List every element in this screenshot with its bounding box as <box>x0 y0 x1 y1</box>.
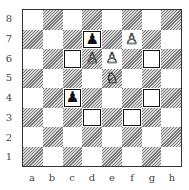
square-e4[interactable] <box>102 88 122 108</box>
square-f7[interactable]: ♙ <box>122 30 142 50</box>
black-pawn-icon[interactable]: ♟ <box>85 32 98 47</box>
square-b8[interactable] <box>43 10 63 30</box>
square-f5[interactable] <box>122 69 142 89</box>
file-label-g: g <box>142 172 162 183</box>
square-c4[interactable]: ♟ <box>63 88 83 108</box>
file-label-f: f <box>122 172 142 183</box>
file-label-d: d <box>82 172 102 183</box>
square-f3[interactable] <box>122 108 142 128</box>
file-label-h: h <box>162 172 182 183</box>
square-f6[interactable] <box>122 49 142 69</box>
square-e8[interactable] <box>102 10 122 30</box>
square-b1[interactable] <box>43 147 63 167</box>
rank-label-1: 1 <box>3 151 15 162</box>
square-d5[interactable] <box>82 69 102 89</box>
square-b2[interactable] <box>43 127 63 147</box>
white-pawn-icon[interactable]: ♙ <box>105 51 118 66</box>
square-c3[interactable] <box>63 108 83 128</box>
square-c7[interactable] <box>63 30 83 50</box>
square-a5[interactable] <box>23 69 43 89</box>
square-g2[interactable] <box>142 127 162 147</box>
square-h1[interactable] <box>161 147 181 167</box>
square-g3[interactable] <box>142 108 162 128</box>
square-b4[interactable] <box>43 88 63 108</box>
square-c1[interactable] <box>63 147 83 167</box>
square-c8[interactable] <box>63 10 83 30</box>
square-a7[interactable] <box>23 30 43 50</box>
square-b5[interactable] <box>43 69 63 89</box>
square-g7[interactable] <box>142 30 162 50</box>
square-b6[interactable] <box>43 49 63 69</box>
square-f4[interactable] <box>122 88 142 108</box>
file-label-c: c <box>62 172 82 183</box>
file-label-e: e <box>102 172 122 183</box>
square-d6[interactable]: ♙ <box>82 49 102 69</box>
white-pawn-icon[interactable]: ♙ <box>85 51 98 66</box>
square-a3[interactable] <box>23 108 43 128</box>
square-c5[interactable] <box>63 69 83 89</box>
file-label-a: a <box>22 172 42 183</box>
square-a4[interactable] <box>23 88 43 108</box>
square-b7[interactable] <box>43 30 63 50</box>
square-g5[interactable] <box>142 69 162 89</box>
square-g8[interactable] <box>142 10 162 30</box>
square-h2[interactable] <box>161 127 181 147</box>
square-d4[interactable] <box>82 88 102 108</box>
square-h8[interactable] <box>161 10 181 30</box>
square-e6[interactable]: ♙ <box>102 49 122 69</box>
square-f8[interactable] <box>122 10 142 30</box>
chess-board: ♟♙♙♙♘♟ <box>22 9 182 167</box>
rank-label-2: 2 <box>3 132 15 143</box>
rank-label-8: 8 <box>3 13 15 24</box>
square-g4[interactable] <box>142 88 162 108</box>
square-a6[interactable] <box>23 49 43 69</box>
square-c6[interactable] <box>63 49 83 69</box>
square-e2[interactable] <box>102 127 122 147</box>
square-d8[interactable] <box>82 10 102 30</box>
square-c2[interactable] <box>63 127 83 147</box>
white-knight-icon[interactable]: ♘ <box>105 71 118 86</box>
rank-label-3: 3 <box>3 112 15 123</box>
square-e1[interactable] <box>102 147 122 167</box>
square-h7[interactable] <box>161 30 181 50</box>
square-f1[interactable] <box>122 147 142 167</box>
black-pawn-icon[interactable]: ♟ <box>66 90 79 105</box>
file-label-b: b <box>42 172 62 183</box>
square-a8[interactable] <box>23 10 43 30</box>
square-d1[interactable] <box>82 147 102 167</box>
rank-label-7: 7 <box>3 33 15 44</box>
square-h3[interactable] <box>161 108 181 128</box>
square-e3[interactable] <box>102 108 122 128</box>
square-g6[interactable] <box>142 49 162 69</box>
rank-label-6: 6 <box>3 53 15 64</box>
square-e5[interactable]: ♘ <box>102 69 122 89</box>
square-a1[interactable] <box>23 147 43 167</box>
square-h6[interactable] <box>161 49 181 69</box>
square-h4[interactable] <box>161 88 181 108</box>
square-b3[interactable] <box>43 108 63 128</box>
square-d3[interactable] <box>82 108 102 128</box>
square-h5[interactable] <box>161 69 181 89</box>
square-f2[interactable] <box>122 127 142 147</box>
square-d7[interactable]: ♟ <box>82 30 102 50</box>
square-e7[interactable] <box>102 30 122 50</box>
square-g1[interactable] <box>142 147 162 167</box>
square-d2[interactable] <box>82 127 102 147</box>
rank-label-5: 5 <box>3 72 15 83</box>
square-a2[interactable] <box>23 127 43 147</box>
white-pawn-icon[interactable]: ♙ <box>125 32 138 47</box>
rank-label-4: 4 <box>3 92 15 103</box>
